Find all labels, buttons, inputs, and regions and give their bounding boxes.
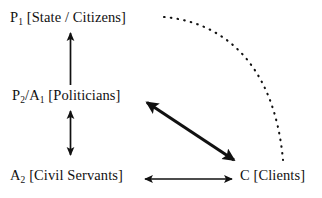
node-politicians-subscript-2: 1	[40, 95, 45, 105]
node-clients-bracket: [Clients]	[250, 167, 305, 183]
node-clients-prefix: C	[240, 167, 250, 183]
node-state-subscript: 1	[18, 17, 23, 27]
node-civil-servants: A2 [Civil Servants]	[10, 168, 123, 183]
node-state-bracket: [State / Citizens]	[23, 9, 126, 25]
node-state-citizens: P1 [State / Citizens]	[10, 10, 126, 25]
node-state-prefix: P	[10, 9, 18, 25]
node-servants-bracket: [Civil Servants]	[25, 167, 123, 183]
node-servants-subscript: 2	[21, 175, 26, 185]
node-politicians-bracket: [Politicians]	[45, 87, 121, 103]
node-clients: C [Clients]	[240, 168, 305, 183]
node-politicians: P2/A1 [Politicians]	[12, 88, 121, 103]
edge-state-clients-dotted	[164, 17, 283, 160]
edge-politicians-clients	[147, 103, 234, 161]
node-servants-prefix: A	[10, 167, 21, 183]
diagram-canvas: P1 [State / Citizens] P2/A1 [Politicians…	[0, 0, 322, 198]
node-politicians-mid: /A	[25, 87, 40, 103]
node-politicians-subscript-1: 2	[20, 95, 25, 105]
node-politicians-prefix: P	[12, 87, 20, 103]
